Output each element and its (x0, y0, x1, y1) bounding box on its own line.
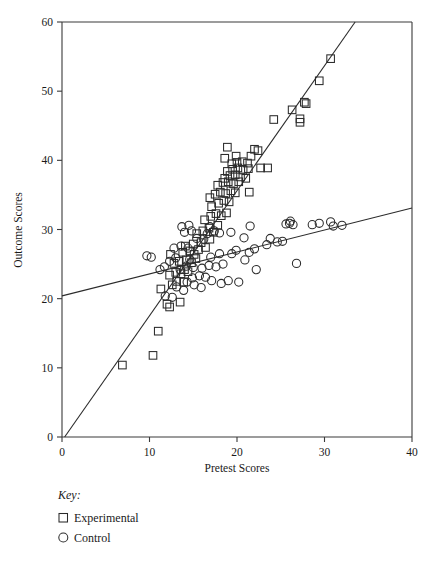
data-point-circle (240, 234, 248, 242)
data-point-square (202, 244, 210, 252)
x-tick-label: 30 (319, 446, 331, 458)
y-tick-label: 30 (42, 224, 54, 236)
plot-canvas: 0102030405060 010203040 Pretest Scores O… (0, 0, 437, 565)
data-point-circle (219, 260, 227, 268)
legend-item-experimental[interactable]: Experimental (59, 511, 139, 525)
legend-square-marker (59, 514, 68, 523)
y-tick-label: 60 (42, 16, 54, 28)
x-tick-label: 40 (406, 446, 418, 458)
data-point-circle (197, 284, 205, 292)
data-point-square (154, 327, 162, 335)
x-tick-label: 0 (59, 446, 65, 458)
regression-lines (62, 22, 412, 437)
data-point-square (149, 352, 157, 360)
data-point-square (257, 164, 265, 172)
y-axis-title: Outcome Scores (12, 192, 24, 268)
data-point-circle (208, 277, 216, 285)
data-point-square (315, 77, 323, 85)
data-point-circle (215, 229, 223, 237)
legend-item-control[interactable]: Control (59, 531, 112, 545)
y-tick-label: 20 (42, 293, 54, 305)
y-tick-label: 50 (42, 85, 54, 97)
data-point-circle (235, 278, 243, 286)
y-tick-label: 0 (47, 431, 53, 443)
data-point-square (176, 298, 184, 306)
y-tick-marks (57, 22, 62, 437)
data-point-square (270, 116, 278, 124)
data-point-circle (224, 277, 232, 285)
x-tick-labels: 010203040 (59, 446, 418, 458)
data-point-square (221, 154, 229, 162)
x-tick-label: 10 (144, 446, 156, 458)
data-point-circle (252, 266, 260, 274)
legend-circle-marker (59, 533, 68, 542)
data-point-square (245, 188, 253, 196)
data-point-circle (246, 222, 254, 230)
scatter-plot-figure: 0102030405060 010203040 Pretest Scores O… (0, 0, 437, 565)
data-point-square (166, 303, 174, 311)
data-point-circle (207, 253, 215, 261)
data-point-square (224, 143, 232, 151)
legend-title: Key: (57, 488, 81, 502)
y-tick-label: 10 (42, 362, 54, 374)
axes-frame (62, 22, 412, 437)
x-tick-label: 20 (231, 446, 243, 458)
x-tick-marks (62, 437, 412, 442)
series-experimental-points (119, 55, 335, 369)
y-tick-labels: 0102030405060 (42, 16, 54, 443)
data-point-circle (173, 283, 181, 291)
regression-line-experimental (65, 22, 356, 437)
data-point-square (215, 199, 223, 207)
legend: Key: Experimental Control (57, 488, 139, 545)
legend-label-control: Control (74, 531, 111, 545)
series-control-points (143, 217, 346, 301)
data-point-circle (292, 259, 300, 267)
data-point-circle (201, 273, 209, 281)
data-point-circle (241, 256, 249, 264)
regression-line-control (62, 208, 412, 296)
data-point-square (264, 164, 272, 172)
data-point-circle (266, 234, 274, 242)
x-axis-title: Pretest Scores (205, 462, 270, 474)
data-point-circle (227, 228, 235, 236)
legend-label-experimental: Experimental (74, 511, 139, 525)
data-point-square (119, 361, 127, 369)
y-tick-label: 40 (42, 154, 54, 166)
data-point-square (163, 300, 171, 308)
